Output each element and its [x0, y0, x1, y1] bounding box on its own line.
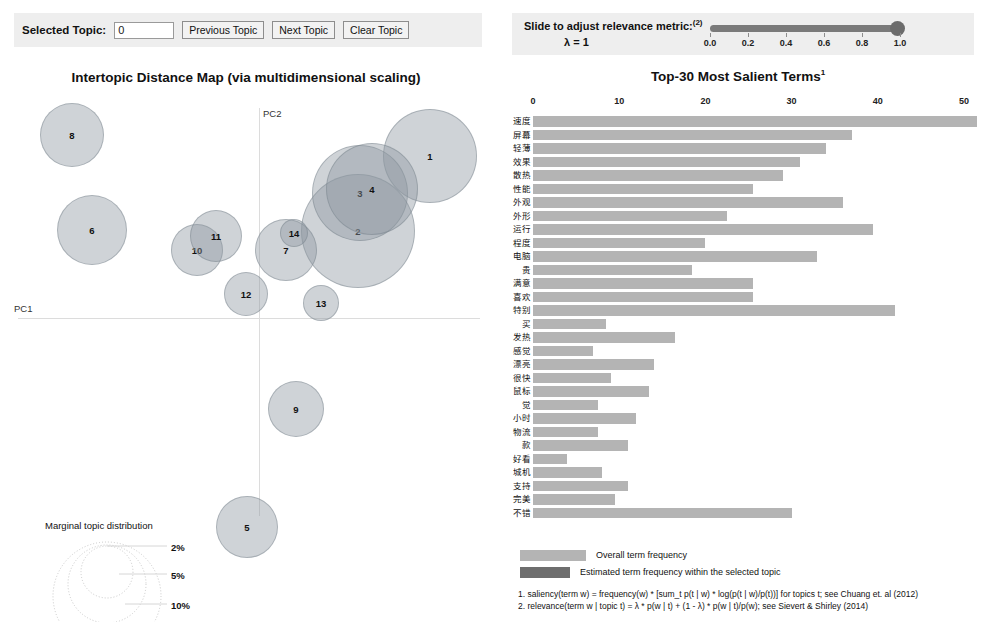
topic-bubble-6[interactable] — [57, 195, 127, 265]
term-bar-row[interactable]: 效果 — [492, 156, 984, 170]
term-bar-row[interactable]: 好看 — [492, 453, 984, 467]
term-label[interactable]: 买 — [471, 318, 531, 331]
legend-row-topic: Estimated term frequency within the sele… — [492, 565, 984, 582]
term-bar-row[interactable]: 小时 — [492, 412, 984, 426]
term-label[interactable]: 城机 — [471, 466, 531, 479]
topic-bubble-9[interactable] — [268, 381, 324, 437]
term-bar-row[interactable]: 满意 — [492, 277, 984, 291]
legend-swatch-overall-icon — [520, 550, 586, 561]
marginal-topic-distribution-legend: Marginal topic distribution 2% 5% 10% — [45, 520, 245, 625]
bar-overall-frequency — [533, 467, 602, 478]
term-bar-row[interactable]: 贵 — [492, 264, 984, 278]
bar-overall-frequency — [533, 440, 628, 451]
selected-topic-input[interactable] — [114, 22, 174, 39]
topic-bubble-12[interactable] — [224, 272, 268, 316]
term-bar-row[interactable]: 性能 — [492, 183, 984, 197]
term-label[interactable]: 满意 — [471, 277, 531, 290]
term-label[interactable]: 觉 — [471, 399, 531, 412]
topic-bubble-14[interactable] — [280, 219, 308, 247]
term-bar-row[interactable]: 漂亮 — [492, 358, 984, 372]
term-label[interactable]: 好看 — [471, 453, 531, 466]
term-label[interactable]: 很快 — [471, 372, 531, 385]
term-bar-row[interactable]: 感觉 — [492, 345, 984, 359]
slider-tick-0.8 — [862, 33, 863, 37]
bar-overall-frequency — [533, 278, 753, 289]
term-label[interactable]: 运行 — [471, 223, 531, 236]
term-bar-row[interactable]: 城机 — [492, 466, 984, 480]
term-label[interactable]: 感觉 — [471, 345, 531, 358]
term-bar-row[interactable]: 程度 — [492, 237, 984, 251]
marginal-legend-level-2: 2% — [171, 542, 185, 553]
term-label[interactable]: 不错 — [471, 507, 531, 520]
term-bar-row[interactable]: 款 — [492, 439, 984, 453]
term-bar-row[interactable]: 觉 — [492, 399, 984, 413]
bar-overall-frequency — [533, 157, 800, 168]
slider-tick-label-1.0: 1.0 — [894, 38, 907, 48]
term-bar-row[interactable]: 外形 — [492, 210, 984, 224]
bar-overall-frequency — [533, 184, 753, 195]
relevance-slider-track[interactable] — [710, 25, 900, 32]
x-tick-label-20: 20 — [700, 96, 710, 106]
term-bar-row[interactable]: 轻薄 — [492, 142, 984, 156]
term-label[interactable]: 完美 — [471, 493, 531, 506]
term-bar-row[interactable]: 物流 — [492, 426, 984, 440]
term-bar-row[interactable]: 完美 — [492, 493, 984, 507]
term-label[interactable]: 电脑 — [471, 250, 531, 263]
legend-label-topic: Estimated term frequency within the sele… — [580, 567, 781, 577]
term-bar-row[interactable]: 散热 — [492, 169, 984, 183]
term-label[interactable]: 外形 — [471, 210, 531, 223]
term-label[interactable]: 喜欢 — [471, 291, 531, 304]
previous-topic-button[interactable]: Previous Topic — [182, 21, 264, 39]
slider-tick-0.4 — [786, 33, 787, 37]
term-bar-row[interactable]: 鼠标 — [492, 385, 984, 399]
term-bar-row[interactable]: 喜欢 — [492, 291, 984, 305]
term-bar-row[interactable]: 买 — [492, 318, 984, 332]
selected-topic-label: Selected Topic: — [22, 24, 106, 36]
term-label[interactable]: 鼠标 — [471, 385, 531, 398]
term-label[interactable]: 贵 — [471, 264, 531, 277]
term-label[interactable]: 轻薄 — [471, 142, 531, 155]
term-label[interactable]: 特别 — [471, 304, 531, 317]
topic-bubble-13[interactable] — [303, 285, 339, 321]
term-bar-row[interactable]: 不错 — [492, 507, 984, 521]
slider-tick-label-0.2: 0.2 — [742, 38, 755, 48]
term-label[interactable]: 效果 — [471, 156, 531, 169]
term-bar-row[interactable]: 支持 — [492, 480, 984, 494]
term-label[interactable]: 程度 — [471, 237, 531, 250]
next-topic-button[interactable]: Next Topic — [272, 21, 335, 39]
topic-bubble-4[interactable] — [326, 143, 418, 235]
marginal-legend-title: Marginal topic distribution — [45, 520, 245, 531]
mds-scatter-plot[interactable]: PC1 PC2 1234567891011121314 — [0, 92, 492, 512]
term-label[interactable]: 散热 — [471, 169, 531, 182]
term-bar-row[interactable]: 屏幕 — [492, 129, 984, 143]
term-label[interactable]: 小时 — [471, 412, 531, 425]
topic-bubble-8[interactable] — [40, 103, 104, 167]
slider-tick-1.0 — [900, 33, 901, 37]
topic-bubble-11[interactable] — [190, 210, 242, 262]
bar-overall-frequency — [533, 292, 753, 303]
term-bar-row[interactable]: 发热 — [492, 331, 984, 345]
relevance-slider-handle[interactable] — [890, 21, 905, 36]
term-bar-row[interactable]: 外观 — [492, 196, 984, 210]
clear-topic-button[interactable]: Clear Topic — [343, 21, 409, 39]
term-label[interactable]: 性能 — [471, 183, 531, 196]
term-label[interactable]: 速度 — [471, 115, 531, 128]
term-label[interactable]: 支持 — [471, 480, 531, 493]
term-bar-row[interactable]: 速度 — [492, 115, 984, 129]
term-bar-row[interactable]: 运行 — [492, 223, 984, 237]
term-bar-row[interactable]: 很快 — [492, 372, 984, 386]
legend-swatch-topic-icon — [520, 567, 570, 578]
bar-overall-frequency — [533, 143, 826, 154]
pc2-axis-line — [259, 108, 260, 516]
term-bar-row[interactable]: 特别 — [492, 304, 984, 318]
term-label[interactable]: 发热 — [471, 331, 531, 344]
term-label[interactable]: 款 — [471, 439, 531, 452]
term-bar-row[interactable]: 电脑 — [492, 250, 984, 264]
term-label[interactable]: 物流 — [471, 426, 531, 439]
bar-overall-frequency — [533, 373, 611, 384]
bar-overall-frequency — [533, 305, 895, 316]
bar-overall-frequency — [533, 346, 593, 357]
term-label[interactable]: 屏幕 — [471, 129, 531, 142]
term-label[interactable]: 漂亮 — [471, 358, 531, 371]
term-label[interactable]: 外观 — [471, 196, 531, 209]
